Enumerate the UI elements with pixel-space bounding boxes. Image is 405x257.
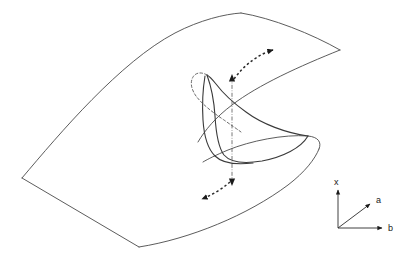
surface-edge-bottom-right xyxy=(139,149,319,247)
surface-boundary xyxy=(22,13,340,247)
surface-edge-top-right xyxy=(241,13,340,50)
surface-edge-top-left xyxy=(22,13,241,178)
axis-a-line xyxy=(338,204,370,228)
axis-label-a: a xyxy=(376,195,381,205)
surface-edge-bottom-left xyxy=(22,178,139,247)
fold-curve-left-branch xyxy=(203,76,253,164)
fold-curves xyxy=(191,73,308,164)
cusp-catastrophe-diagram: x a b xyxy=(0,0,405,257)
fold-curve-upper xyxy=(207,75,308,136)
upper-transition-arrow xyxy=(234,50,273,79)
transition-arrows xyxy=(202,50,273,199)
axis-label-x: x xyxy=(334,177,339,187)
axis-triad: x a b xyxy=(334,177,393,233)
axis-label-b: b xyxy=(388,223,393,233)
surface-edge-right-upper xyxy=(198,50,340,142)
vertical-jump-line-group xyxy=(229,74,235,186)
lower-transition-arrow xyxy=(202,182,230,199)
